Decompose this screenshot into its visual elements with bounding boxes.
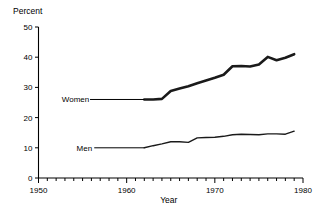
y-tick-label: 0 xyxy=(28,174,33,183)
chart-container: 010203040501950196019701980PercentYearWo… xyxy=(0,0,317,208)
y-tick-label: 30 xyxy=(24,83,33,92)
line-chart: 010203040501950196019701980PercentYearWo… xyxy=(0,0,317,208)
x-tick-label: 1980 xyxy=(294,186,312,195)
women-label: Women xyxy=(62,95,89,104)
y-tick-label: 20 xyxy=(24,114,33,123)
series-line-women xyxy=(144,54,294,99)
series-line-men xyxy=(144,131,294,148)
x-tick-label: 1970 xyxy=(206,186,224,195)
x-tick-label: 1950 xyxy=(30,186,48,195)
men-label: Men xyxy=(77,144,93,153)
y-tick-label: 10 xyxy=(24,144,33,153)
y-axis-title: Percent xyxy=(13,6,43,16)
y-tick-label: 50 xyxy=(24,23,33,32)
x-tick-label: 1960 xyxy=(118,186,136,195)
y-tick-label: 40 xyxy=(24,53,33,62)
x-axis-title: Year xyxy=(160,195,177,205)
